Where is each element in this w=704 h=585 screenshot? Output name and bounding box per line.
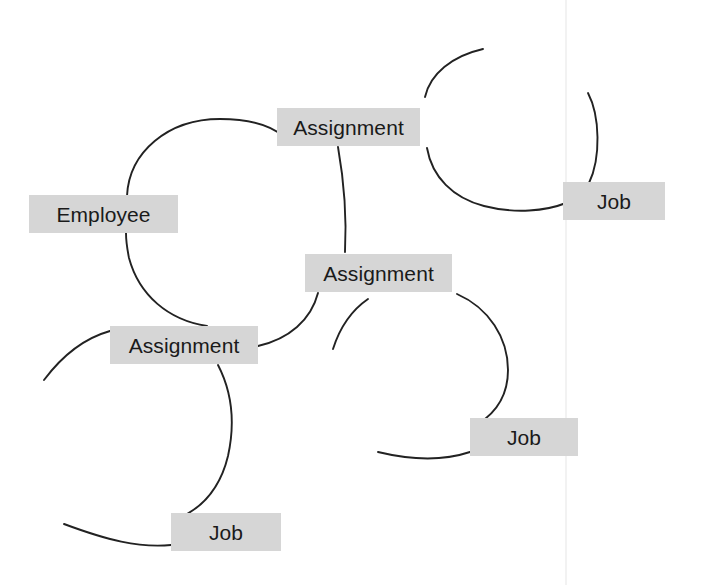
arc-assignment-left-to-employee bbox=[126, 233, 207, 326]
entity-job-bottom[interactable]: Job bbox=[171, 513, 281, 551]
diagram-canvas: Employee Assignment Assignment Assignmen… bbox=[0, 0, 704, 585]
arc-stub-left-of-assignment-mid bbox=[333, 299, 368, 349]
arc-stub-right-of-job-top-right bbox=[588, 93, 598, 183]
entity-employee[interactable]: Employee bbox=[29, 195, 178, 233]
arc-assignment-mid-to-job-mid-right bbox=[457, 294, 508, 424]
entity-job-top-right-label: Job bbox=[597, 191, 631, 212]
arc-stub-left-of-assignment-left bbox=[44, 331, 110, 380]
entity-assignment-left[interactable]: Assignment bbox=[110, 326, 258, 364]
entity-job-top-right[interactable]: Job bbox=[563, 182, 665, 220]
arc-assignment-mid-to-assignment-left bbox=[258, 293, 318, 346]
entity-employee-label: Employee bbox=[56, 204, 150, 225]
entity-assignment-middle-label: Assignment bbox=[323, 263, 434, 284]
arc-job-mid-right-ring-lower bbox=[378, 452, 470, 458]
arc-assignment-top-to-assignment-mid bbox=[338, 147, 346, 252]
entity-assignment-middle[interactable]: Assignment bbox=[305, 254, 452, 292]
entity-job-middle-right[interactable]: Job bbox=[470, 418, 578, 456]
page-seam-line bbox=[565, 0, 567, 585]
arc-employee-to-assignment-top bbox=[127, 119, 283, 196]
arc-assignment-top-to-job-top-right bbox=[425, 49, 483, 97]
entity-job-middle-right-label: Job bbox=[507, 427, 541, 448]
entity-assignment-top-label: Assignment bbox=[293, 117, 404, 138]
arc-job-bottom-ring-lower bbox=[64, 524, 171, 546]
entity-assignment-top[interactable]: Assignment bbox=[277, 108, 420, 146]
relationship-arcs bbox=[0, 0, 704, 585]
arc-assignment-top-ring-lower bbox=[427, 148, 566, 211]
entity-assignment-left-label: Assignment bbox=[129, 335, 240, 356]
arc-assignment-left-to-job-bottom bbox=[177, 365, 232, 519]
entity-job-bottom-label: Job bbox=[209, 522, 243, 543]
